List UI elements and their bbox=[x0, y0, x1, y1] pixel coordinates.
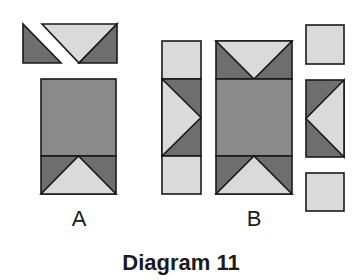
diagram-a bbox=[23, 24, 117, 194]
diagram-title: Diagram 11 bbox=[122, 250, 239, 275]
a-bottom-flying-geese bbox=[41, 156, 116, 194]
diagram-canvas: A B Diagram 11 bbox=[0, 0, 361, 280]
a-center-dark-rectangle bbox=[41, 79, 116, 156]
diagram-b bbox=[162, 25, 344, 211]
b-right-flying-geese bbox=[306, 80, 344, 157]
b-left-top-light-square bbox=[162, 41, 201, 79]
b-center-bottom-flying-geese bbox=[216, 156, 292, 194]
label-a: A bbox=[72, 206, 87, 231]
b-center-dark-rectangle bbox=[216, 79, 292, 156]
b-right-bottom-light-square bbox=[306, 173, 344, 211]
label-b: B bbox=[247, 206, 262, 231]
b-left-flying-geese bbox=[162, 79, 201, 156]
b-right-top-light-square bbox=[306, 25, 344, 64]
b-left-bottom-light-square bbox=[162, 156, 201, 194]
b-center-top-flying-geese bbox=[216, 41, 292, 79]
